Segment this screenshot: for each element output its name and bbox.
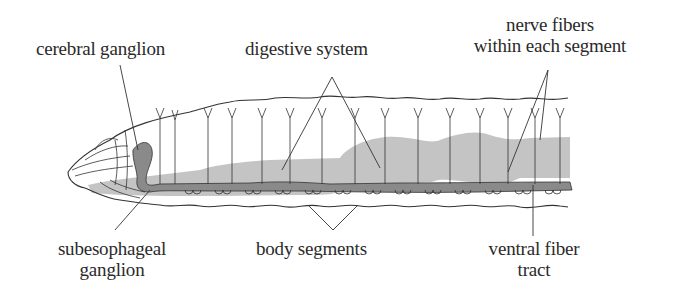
leader-cerebral-ganglion xyxy=(120,65,138,150)
label-nerve-fibers-line1: nerve fibers xyxy=(440,14,660,35)
label-cerebral-ganglion: cerebral ganglion xyxy=(36,38,165,59)
label-nerve-fibers: nerve fibers within each segment xyxy=(440,14,660,56)
leader-body-segments xyxy=(308,205,358,230)
label-body-segments: body segments xyxy=(256,238,367,259)
label-digestive-system: digestive system xyxy=(245,38,368,59)
label-ventral-fiber-tract: ventral fiber tract xyxy=(468,238,600,280)
label-subesophageal-line2: ganglion xyxy=(38,259,186,280)
label-nerve-fibers-line2: within each segment xyxy=(440,35,660,56)
label-ventral-fiber-line2: tract xyxy=(468,259,600,280)
label-subesophageal-ganglion: subesophageal ganglion xyxy=(38,238,186,280)
label-subesophageal-line1: subesophageal xyxy=(38,238,186,259)
label-ventral-fiber-line1: ventral fiber xyxy=(468,238,600,259)
